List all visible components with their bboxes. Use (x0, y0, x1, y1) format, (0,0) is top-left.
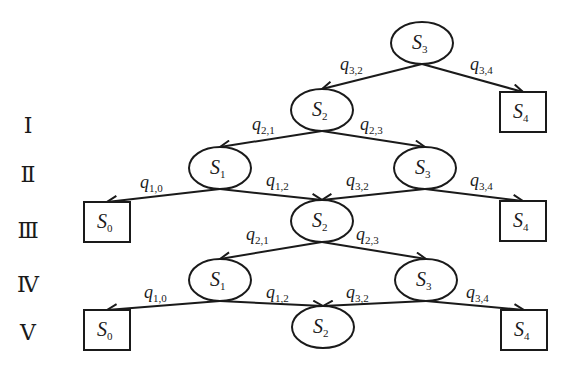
transition-label: q1,0 (140, 172, 163, 194)
absorbing-state-node: S0 (84, 310, 130, 350)
transition-label: q3,4 (470, 54, 493, 76)
level-label: Ⅱ (21, 162, 36, 187)
state-node: S3 (391, 22, 453, 64)
transition-label: q3,4 (466, 282, 489, 304)
state-node: S2 (292, 306, 354, 348)
transition-label: q1,0 (144, 282, 167, 304)
state-node: S1 (189, 147, 251, 189)
transition-label: q1,2 (266, 170, 289, 192)
state-node: S2 (291, 200, 353, 242)
transition-label: q3,4 (470, 170, 493, 192)
edge-arrow (107, 189, 220, 202)
absorbing-state-node: S0 (84, 202, 130, 242)
transition-label: q2,1 (252, 114, 275, 136)
transition-label: q3,2 (346, 282, 369, 304)
level-labels: ⅠⅡⅢⅣⅤ (17, 113, 40, 345)
edge-arrow (323, 301, 426, 306)
transition-label: q3,2 (346, 170, 369, 192)
transition-label: q2,1 (246, 224, 269, 246)
absorbing-state-node: S4 (500, 201, 546, 241)
level-label: Ⅲ (17, 218, 38, 243)
level-label: Ⅰ (24, 113, 33, 138)
level-label: Ⅳ (17, 272, 40, 297)
transition-label: q2,3 (360, 114, 383, 136)
state-node: S3 (395, 259, 457, 301)
state-node: S2 (291, 89, 353, 131)
transition-label: q2,3 (356, 224, 379, 246)
edge-arrow (220, 189, 322, 200)
state-node: S1 (189, 259, 251, 301)
absorbing-state-node: S4 (501, 310, 547, 350)
level-label: Ⅴ (19, 320, 37, 345)
edge-arrow (322, 64, 422, 89)
absorbing-state-node: S4 (500, 92, 546, 132)
transition-label: q1,2 (266, 282, 289, 304)
state-node: S3 (394, 147, 456, 189)
edge-arrow (322, 189, 425, 200)
transition-label: q3,2 (340, 54, 363, 76)
edge-arrow (425, 189, 523, 201)
state-transition-diagram: S3S2S4S1S3S0S2S4S1S3S0S2S4 q3,2q3,4q2,1q… (0, 0, 570, 376)
edge-arrow (220, 242, 322, 259)
